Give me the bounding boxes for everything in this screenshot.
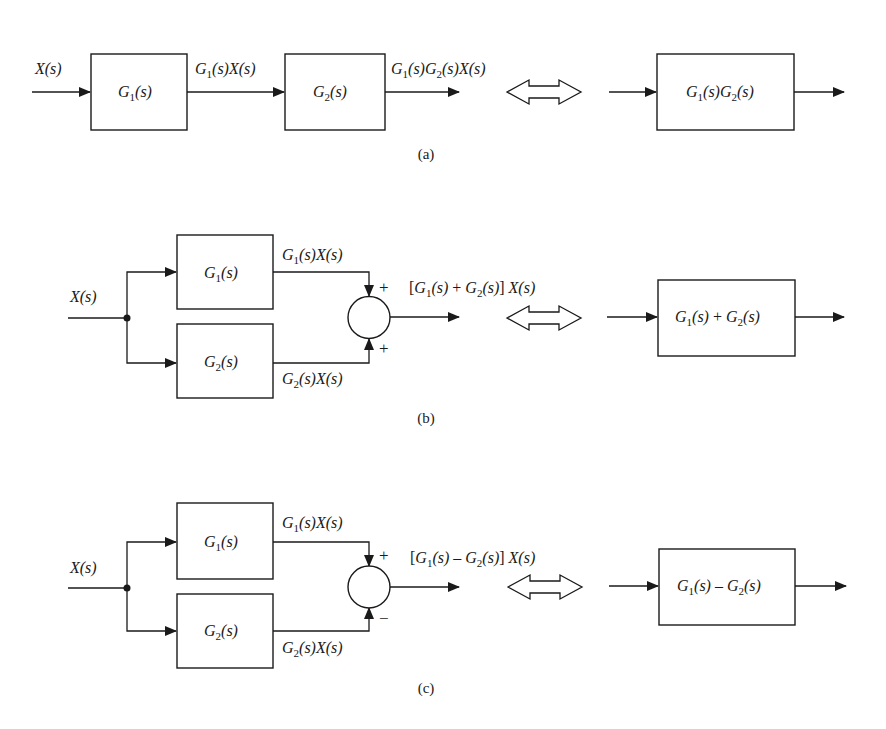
panel-a-intermediate-label: G1(s)X(s) [195,60,256,80]
panel-b-parallel-sum: X(s) G1(s) G2(s) G1(s)X(s) G2(s)X(s) + +… [68,235,844,427]
panel-b-upper-branch [127,272,176,318]
panel-b-lower-output-label: G2(s)X(s) [282,370,343,390]
panel-a-cascade: X(s) G1(s) G1(s)X(s) G2(s) G1(s)G2(s)X(s… [32,54,844,163]
panel-b-input-label: X(s) [69,288,97,306]
panel-a-caption: (a) [418,146,435,163]
panel-c-output-label: [G1(s) – G2(s)] X(s) [410,549,535,569]
panel-b-upper-to-sum [273,272,369,296]
panel-a-input-label: X(s) [34,60,62,78]
panel-a-output-label: G1(s)G2(s)X(s) [391,60,486,80]
panel-c-lower-output-label: G2(s)X(s) [282,639,343,659]
panel-b-lower-branch [127,318,176,363]
double-arrow-icon [507,80,581,104]
panel-c-upper-to-sum [273,542,369,566]
panel-c-summing-junction [348,566,390,608]
panel-c-sign-lower: − [379,609,389,628]
panel-b-caption: (b) [417,410,435,427]
block-diagram-reduction-figure: X(s) G1(s) G1(s)X(s) G2(s) G1(s)G2(s)X(s… [0,0,886,729]
panel-c-input-label: X(s) [69,559,97,577]
double-arrow-icon [507,306,581,330]
panel-c-caption: (c) [418,680,435,697]
panel-c-upper-branch [127,542,176,588]
panel-c-parallel-difference: X(s) G1(s) G2(s) G1(s)X(s) G2(s)X(s) + −… [68,503,846,697]
panel-c-sign-upper: + [379,546,389,565]
panel-b-sign-lower: + [379,339,389,358]
panel-b-output-label: [G1(s) + G2(s)] X(s) [409,279,535,299]
panel-b-summing-junction [348,297,390,339]
panel-b-lower-to-sum [273,339,369,363]
panel-c-lower-branch [127,588,176,631]
panel-c-upper-output-label: G1(s)X(s) [282,514,343,534]
panel-b-sign-upper: + [379,278,389,297]
panel-b-upper-output-label: G1(s)X(s) [282,246,343,266]
double-arrow-icon [508,575,582,599]
panel-c-lower-to-sum [273,608,369,631]
